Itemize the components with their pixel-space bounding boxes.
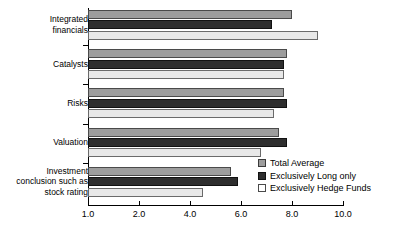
bar bbox=[88, 138, 287, 147]
x-tick-label: 2.0 bbox=[119, 209, 159, 219]
bar bbox=[88, 49, 287, 58]
legend-label: Exclusively Hedge Funds bbox=[270, 182, 371, 195]
x-tick bbox=[241, 201, 242, 206]
bar-chart: Integrated financialsCatalystsRisksValua… bbox=[0, 0, 410, 231]
x-tick-label: 6.0 bbox=[221, 209, 261, 219]
category-label: Catalysts bbox=[53, 59, 88, 70]
legend-label: Total Average bbox=[270, 157, 324, 170]
category-label: Valuation bbox=[53, 137, 88, 148]
category-tick bbox=[83, 124, 88, 125]
category-label: Risks bbox=[67, 98, 88, 109]
category-tick bbox=[83, 45, 88, 46]
category-tick bbox=[83, 163, 88, 164]
x-axis-line bbox=[88, 205, 344, 206]
legend-swatch-icon bbox=[258, 184, 266, 192]
legend-swatch-icon bbox=[258, 172, 266, 180]
x-tick bbox=[343, 201, 344, 206]
legend-item-long-only: Exclusively Long only bbox=[258, 170, 371, 183]
category-label: Integrated financials bbox=[50, 14, 88, 35]
legend-label: Exclusively Long only bbox=[270, 170, 356, 183]
bar bbox=[88, 177, 238, 186]
x-tick bbox=[88, 201, 89, 206]
legend-item-total-average: Total Average bbox=[258, 157, 371, 170]
x-tick bbox=[190, 201, 191, 206]
category-tick bbox=[83, 84, 88, 85]
x-tick-label: 1.0 bbox=[68, 209, 108, 219]
bar bbox=[88, 20, 272, 29]
x-tick-label: 4.0 bbox=[170, 209, 210, 219]
bar bbox=[88, 31, 318, 40]
bar bbox=[88, 70, 284, 79]
bar bbox=[88, 99, 287, 108]
x-tick bbox=[292, 201, 293, 206]
bar bbox=[88, 10, 292, 19]
x-tick-label: 8.0 bbox=[272, 209, 312, 219]
bar bbox=[88, 188, 203, 197]
bar bbox=[88, 128, 279, 137]
bar bbox=[88, 88, 284, 97]
legend-swatch-icon bbox=[258, 159, 266, 167]
legend-item-hedge-funds: Exclusively Hedge Funds bbox=[258, 182, 371, 195]
x-tick-label: 10.0 bbox=[323, 209, 363, 219]
bar bbox=[88, 148, 261, 157]
x-tick bbox=[139, 201, 140, 206]
bar bbox=[88, 109, 274, 118]
legend: Total Average Exclusively Long only Excl… bbox=[258, 157, 371, 195]
category-label: Investment conclusion such as stock rati… bbox=[16, 166, 88, 198]
bar bbox=[88, 60, 284, 69]
bar bbox=[88, 167, 231, 176]
